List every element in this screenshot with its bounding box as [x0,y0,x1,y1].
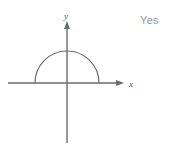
y-axis-arrowhead [64,21,70,29]
x-axis-label: x [128,79,133,89]
answer-text: Yes [140,14,159,27]
x-axis-arrowhead [116,80,124,86]
y-axis-label: y [63,11,68,21]
figure-container: x y Yes [0,0,170,152]
